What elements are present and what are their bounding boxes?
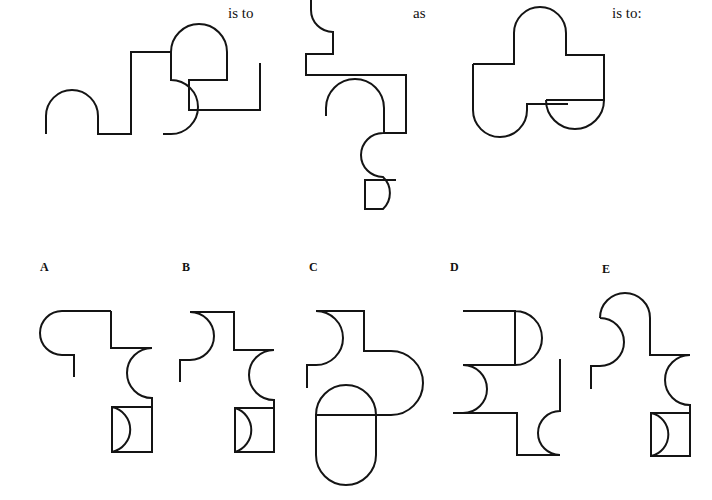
puzzle-canvas: is to as is to: A B C D E xyxy=(0,0,712,500)
answer-option-e-outline[interactable] xyxy=(591,293,690,456)
answer-option-e[interactable] xyxy=(0,0,712,500)
